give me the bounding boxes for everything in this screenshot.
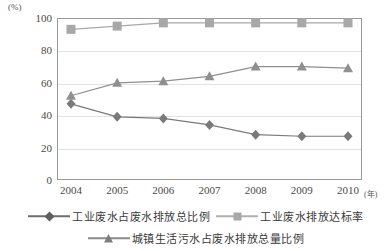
x-axis-tick-2009: 2009 [291, 184, 313, 196]
square-marker-icon [216, 210, 258, 222]
x-axis-tick-2006: 2006 [152, 184, 174, 196]
y-axis-tick-0: 0 [6, 174, 52, 186]
data-point-1-3 [205, 18, 214, 27]
data-point-0-6 [344, 131, 353, 141]
x-axis-tick-2007: 2007 [199, 184, 221, 196]
data-point-0-2 [159, 113, 168, 123]
x-axis-tick-2010: 2010 [337, 184, 359, 196]
legend-row-1: 工业废水占废水排放总比例 工业废水排放达标率 [0, 205, 392, 227]
legend-item-2[interactable]: 城镇生活污水占废水排放总量比例 [88, 230, 305, 246]
x-axis-unit-label: (年) [364, 188, 377, 199]
data-point-1-6 [344, 18, 353, 27]
series-layer [57, 18, 362, 180]
legend-label-0: 工业废水占废水排放总比例 [72, 208, 210, 224]
chart-legend: 工业废水占废水排放总比例 工业废水排放达标率 [0, 205, 392, 249]
y-axis-tick-group: 020406080100 [0, 18, 52, 180]
x-axis-tick-2008: 2008 [245, 184, 267, 196]
x-axis-tick-2004: 2004 [60, 184, 82, 196]
y-axis-tick-60: 60 [6, 77, 52, 89]
legend-label-2: 城镇生活污水占废水排放总量比例 [132, 230, 305, 246]
triangle-marker-icon [88, 232, 130, 244]
data-point-0-1 [113, 112, 122, 122]
series-line-2 [71, 67, 348, 96]
legend-item-0[interactable]: 工业废水占废水排放总比例 [28, 208, 210, 224]
data-point-0-0 [67, 99, 76, 109]
data-point-1-2 [159, 18, 168, 27]
data-point-0-5 [297, 131, 306, 141]
y-axis-tick-40: 40 [6, 109, 52, 121]
legend-row-2: 城镇生活污水占废水排放总量比例 [0, 227, 392, 249]
y-axis-tick-80: 80 [6, 44, 52, 56]
legend-label-1: 工业废水排放达标率 [260, 208, 364, 224]
x-axis-tick-2005: 2005 [106, 184, 128, 196]
data-point-1-4 [251, 18, 260, 27]
data-point-1-0 [67, 25, 76, 34]
data-point-0-3 [205, 120, 214, 130]
data-point-1-5 [297, 18, 306, 27]
y-axis-tick-100: 100 [6, 12, 52, 24]
line-chart: (%) 020406080100 20042005200620072008200… [0, 0, 392, 251]
y-axis-tick-20: 20 [6, 142, 52, 154]
diamond-marker-icon [28, 210, 70, 222]
data-point-0-4 [251, 130, 260, 140]
y-axis-unit-label: (%) [8, 2, 22, 12]
data-point-1-1 [113, 22, 122, 31]
legend-item-1[interactable]: 工业废水排放达标率 [216, 208, 364, 224]
